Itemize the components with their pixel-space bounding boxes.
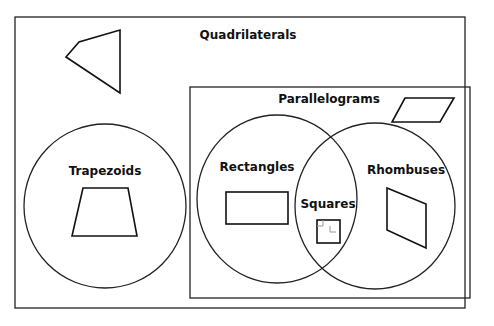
- parallelograms-label: Parallelograms: [278, 92, 380, 106]
- quadrilaterals-diagram: Quadrilaterals Trapezoids Parallelograms…: [0, 0, 494, 326]
- quadrilaterals-label: Quadrilaterals: [200, 28, 297, 42]
- parallelogram-icon: [392, 98, 454, 122]
- trapezoids-label: Trapezoids: [69, 164, 142, 178]
- rectangle-icon: [226, 192, 288, 224]
- irregular-quadrilateral-icon: [66, 30, 120, 93]
- square-icon: [317, 220, 340, 243]
- squares-label: Squares: [300, 197, 355, 211]
- rhombus-icon: [387, 188, 426, 248]
- trapezoid-icon: [72, 188, 137, 236]
- rectangles-label: Rectangles: [220, 160, 295, 174]
- trapezoids-region: [24, 124, 186, 288]
- rhombuses-label: Rhombuses: [367, 163, 445, 177]
- right-angle-mark-icon: [317, 220, 323, 226]
- tick-mark-icon: [330, 226, 336, 232]
